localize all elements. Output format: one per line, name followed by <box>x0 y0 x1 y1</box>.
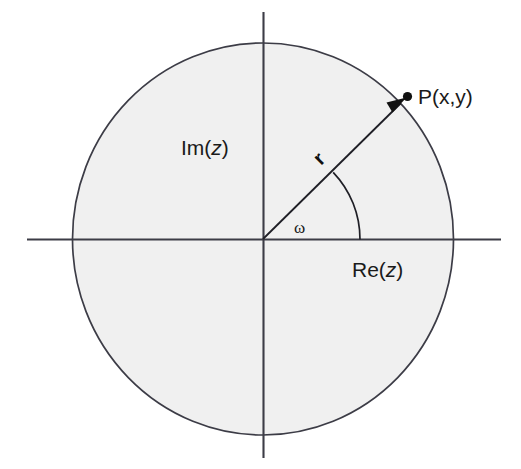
figure-canvas: Im(z) Re(z) r ω P(x,y) <box>0 0 521 469</box>
imaginary-axis-label: Im(z) <box>181 136 229 159</box>
point-label: P(x,y) <box>418 85 473 108</box>
angle-label: ω <box>294 218 305 237</box>
imaginary-axis-label-variable: z <box>210 136 222 159</box>
imaginary-axis-label-prefix: Im( <box>181 136 211 159</box>
real-axis-label: Re(z) <box>352 258 403 281</box>
real-axis-label-variable: z <box>385 258 397 281</box>
imaginary-axis-label-suffix: ) <box>222 136 229 159</box>
real-axis-label-suffix: ) <box>396 258 403 281</box>
point-p-marker <box>403 92 412 101</box>
real-axis-label-prefix: Re( <box>352 258 386 281</box>
complex-plane-diagram: Im(z) Re(z) r ω P(x,y) <box>0 0 521 469</box>
